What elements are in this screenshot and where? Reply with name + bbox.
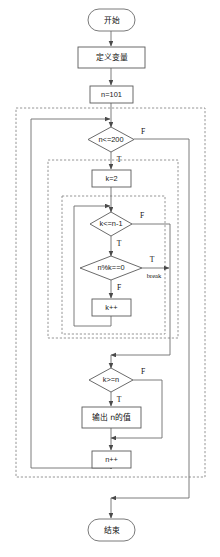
node-init-k-label: k=2 (105, 174, 117, 183)
edge-label-condk-true: T (117, 239, 122, 248)
node-cond-kn[interactable]: k>=n (89, 368, 133, 392)
node-end[interactable]: 结束 (88, 519, 135, 541)
node-init-n-label: n=101 (101, 90, 122, 99)
node-inc-k-label: k++ (105, 303, 117, 312)
node-define-vars[interactable]: 定义变量 (78, 47, 145, 68)
edge-label-condkn-true: T (117, 395, 122, 404)
node-cond-mod-label: n%k==0 (97, 263, 124, 272)
node-inc-n[interactable]: n++ (92, 451, 131, 468)
node-cond-k[interactable]: k<=n-1 (90, 212, 132, 236)
node-init-n[interactable]: n=101 (90, 86, 133, 103)
node-init-k[interactable]: k=2 (92, 170, 131, 187)
node-start[interactable]: 开始 (88, 9, 135, 31)
edge-label-condk-false: F (140, 211, 144, 220)
node-start-label: 开始 (104, 15, 120, 25)
node-cond-n[interactable]: n<=200 (88, 127, 134, 152)
edge-label-condkn-false: F (141, 367, 145, 376)
edge-label-condn-false: F (141, 127, 145, 136)
node-output-n[interactable]: 输出 n的值 (82, 407, 141, 428)
node-cond-mod[interactable]: n%k==0 (80, 256, 142, 280)
node-inc-k[interactable]: k++ (92, 299, 131, 316)
edge-label-condn-true: T (117, 155, 122, 164)
node-cond-k-label: k<=n-1 (99, 219, 122, 228)
edge-label-condmod-true: T (150, 255, 155, 264)
flowchart-svg: 开始 定义变量 n=101 n<=200 F T k=2 k<=n-1 F (0, 0, 220, 557)
edge-label-break: break (147, 272, 162, 279)
node-cond-kn-label: k>=n (103, 375, 119, 384)
flowchart-canvas: 开始 定义变量 n=101 n<=200 F T k=2 k<=n-1 F (0, 0, 220, 557)
node-output-n-label: 输出 n的值 (92, 412, 131, 422)
node-define-vars-label: 定义变量 (96, 52, 128, 62)
node-cond-n-label: n<=200 (98, 135, 123, 144)
edge-condn-false-to-end (111, 139, 189, 498)
edge-label-condmod-false: F (117, 283, 121, 292)
node-end-label: 结束 (104, 525, 120, 535)
node-inc-n-label: n++ (105, 455, 118, 464)
